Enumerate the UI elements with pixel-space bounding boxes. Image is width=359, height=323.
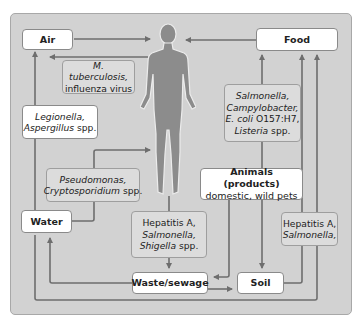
pathogen-box-soil-food: Hepatitis A, Salmonella, [281,212,338,246]
animals-subtitle: domestic, wild pets [205,190,297,202]
pathogen-text: Aspergillus [24,122,74,133]
air-label: Air [40,34,55,46]
pathogen-text: Legionella, [35,111,85,123]
pathogen-text: Hepatitis A, [142,217,195,229]
human-body-icon [140,22,196,202]
pathogen-box-water-human: Pseudomonas, Cryptosporidium spp. [46,168,140,202]
pathogen-text: Listeria [235,125,269,136]
pathogen-box-air-human: M. tuberculosis, influenza virus [62,60,135,94]
pathogen-text: M. tuberculosis, [63,60,134,83]
pathogen-text: Pseudomonas, [60,174,127,186]
pathogen-text: influenza virus [65,83,132,95]
pathogen-text: O157:H7, [253,113,299,124]
soil-label: Soil [251,277,271,289]
pathogen-text: Campylobacter, [226,102,298,114]
food-label: Food [284,34,310,46]
food-node: Food [256,28,338,51]
pathogen-text: Salmonella, [142,229,196,241]
animals-title: Animals (products) [201,166,302,190]
waste-sewage-node: Waste/sewage [132,272,208,294]
pathogen-text: spp. [176,240,198,251]
water-label: Water [30,216,62,228]
pathogen-text: spp. [268,125,290,136]
pathogen-text: Cryptosporidium [44,185,120,196]
air-node: Air [22,29,73,50]
pathogen-text: Salmonella, [283,229,337,241]
animals-node: Animals (products) domestic, wild pets [200,168,303,200]
pathogen-text: spp. [74,122,96,133]
arrow-waste-to-water [50,238,136,283]
pathogen-text: E. coli [226,113,253,124]
soil-node: Soil [237,272,284,294]
pathogen-box-human-waste: Hepatitis A, Salmonella, Shigella spp. [131,211,207,258]
pathogen-box-food-human: Salmonella, Campylobacter, E. coli O157:… [224,84,301,142]
water-node: Water [21,210,72,233]
pathogen-text: Hepatitis A, [283,218,336,230]
pathogen-text: spp. [120,185,142,196]
pathogen-text: Salmonella, [236,90,290,102]
pathogen-box-water-air: Legionella, Aspergillus spp. [22,105,98,139]
waste-sewage-label: Waste/sewage [131,277,208,289]
pathogen-text: Shigella [140,240,176,251]
